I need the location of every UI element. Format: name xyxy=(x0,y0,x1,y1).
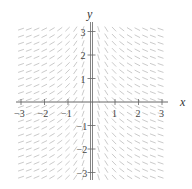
slope-segment xyxy=(74,41,77,46)
slope-segment xyxy=(98,26,100,32)
slope-segment xyxy=(57,70,62,74)
slope-segment xyxy=(127,42,132,45)
slope-segment xyxy=(142,134,148,136)
slope-segment xyxy=(112,154,116,158)
slope-segment xyxy=(105,90,108,95)
slope-segment xyxy=(150,56,156,58)
slope-segment xyxy=(34,56,40,58)
slope-segment xyxy=(127,105,132,108)
slope-segment xyxy=(98,104,100,110)
slope-segment xyxy=(57,63,62,67)
slope-segment xyxy=(98,139,100,145)
slope-segment xyxy=(98,90,100,96)
slope-segment xyxy=(105,139,108,144)
slope-segment xyxy=(135,56,140,59)
slope-segment xyxy=(119,27,124,31)
slope-segment xyxy=(142,113,148,115)
slope-segment xyxy=(142,42,148,44)
slope-segment xyxy=(26,49,32,51)
slope-segment xyxy=(26,120,32,122)
slope-segment xyxy=(135,134,140,137)
x-tick-label: −2 xyxy=(38,108,49,119)
slope-segment xyxy=(65,98,69,102)
slope-segment xyxy=(26,106,32,108)
slope-segment xyxy=(74,97,77,102)
slope-segment xyxy=(158,56,164,58)
slope-segment xyxy=(42,162,47,165)
slope-segment xyxy=(18,127,24,129)
slope-segment xyxy=(49,112,54,115)
slope-segment xyxy=(42,119,47,122)
slope-segment xyxy=(112,147,116,151)
slope-segment xyxy=(158,92,164,94)
slope-segment xyxy=(49,77,54,80)
slope-segment xyxy=(98,118,100,124)
slope-segment xyxy=(142,98,148,100)
x-tick-label: −1 xyxy=(61,108,72,119)
slope-segment xyxy=(119,133,124,137)
slope-segment xyxy=(150,155,156,157)
slope-segment xyxy=(119,77,124,81)
slope-segment xyxy=(135,162,140,165)
slope-segment xyxy=(57,140,62,144)
slope-field-chart: −3−2−1123−3−2−1123 x y xyxy=(0,0,192,189)
slope-segment xyxy=(112,97,116,101)
slope-segment xyxy=(65,41,69,45)
slope-segment xyxy=(150,84,156,86)
slope-segment xyxy=(112,168,116,172)
slope-segment xyxy=(105,69,108,74)
slope-segment xyxy=(98,47,100,53)
slope-segment xyxy=(57,91,62,95)
slope-segment xyxy=(135,155,140,158)
slope-segment xyxy=(34,35,40,37)
slope-segment xyxy=(127,133,132,136)
slope-segment xyxy=(26,169,32,171)
slope-segment xyxy=(98,69,100,75)
slope-segment xyxy=(119,140,124,144)
slope-segment xyxy=(34,42,40,44)
slope-segment xyxy=(112,69,116,73)
y-tick-label: −1 xyxy=(77,121,88,132)
slope-segment xyxy=(34,98,40,100)
slope-segment xyxy=(158,141,164,143)
slope-segment xyxy=(49,28,54,31)
slope-segment xyxy=(119,63,124,67)
slope-segment xyxy=(105,62,108,67)
slope-segment xyxy=(127,63,132,66)
slope-segment xyxy=(34,49,40,51)
slope-segment xyxy=(158,99,164,101)
slope-segment xyxy=(57,133,62,137)
slope-segment xyxy=(105,48,108,53)
slope-segment xyxy=(42,169,47,172)
slope-segment xyxy=(135,63,140,66)
slope-segment xyxy=(65,168,69,172)
slope-segment xyxy=(82,160,84,166)
slope-segment xyxy=(18,169,24,171)
slope-segment xyxy=(119,41,124,45)
slope-segment xyxy=(158,70,164,72)
slope-segment xyxy=(127,112,132,115)
slope-segment xyxy=(119,126,124,130)
slope-segment xyxy=(42,176,47,179)
slope-segment xyxy=(74,69,77,74)
slope-segment xyxy=(150,176,156,178)
slope-segment xyxy=(112,48,116,52)
slope-segment xyxy=(150,42,156,44)
slope-segment xyxy=(135,77,140,80)
slope-segment xyxy=(98,61,100,67)
slope-segment xyxy=(119,55,124,59)
x-tick-label: 2 xyxy=(136,108,141,119)
slope-segment xyxy=(57,175,62,179)
slope-segment xyxy=(42,56,47,59)
slope-segment xyxy=(150,49,156,51)
slope-segment xyxy=(105,41,108,46)
slope-segment xyxy=(119,34,124,38)
slope-segment xyxy=(135,126,140,129)
y-tick-label: 1 xyxy=(81,74,86,85)
slope-segment xyxy=(42,63,47,66)
slope-segment xyxy=(105,97,108,102)
slope-segment xyxy=(65,83,69,87)
slope-segment xyxy=(142,77,148,79)
slope-segment xyxy=(65,62,69,66)
x-tick-label: −3 xyxy=(14,108,25,119)
